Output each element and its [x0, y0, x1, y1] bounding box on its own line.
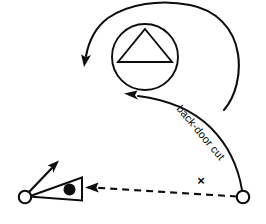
defender-x-mark: ×: [197, 173, 205, 188]
sweep-arc-stroke: [86, 3, 239, 110]
pass-dash-stroke: [97, 188, 237, 197]
cut-label-group: back-door cut: [174, 103, 227, 163]
ball-dot: [64, 184, 76, 196]
pass-dashed-line: [85, 183, 237, 197]
ball-handler-node: [19, 191, 31, 203]
passer-node: [237, 191, 249, 203]
pass-arrowhead: [85, 183, 99, 193]
triangle-inside-circle: [118, 29, 172, 62]
play-diagram-canvas: back-door cut ×: [0, 0, 266, 224]
basketball-play-diagram: back-door cut ×: [0, 0, 266, 224]
player-move-arrow-shaft: [29, 168, 52, 192]
back-door-cut-label: back-door cut: [174, 103, 227, 163]
sweep-motion-arc: [81, 3, 239, 110]
screen-cone: [29, 178, 82, 201]
back-door-cut-arrowhead: [124, 91, 138, 100]
basket-circle-with-triangle: [112, 24, 178, 90]
